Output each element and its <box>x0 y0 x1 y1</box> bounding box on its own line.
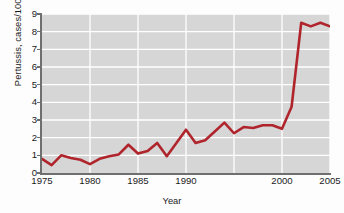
y-tick-mark <box>37 137 40 138</box>
x-tick-label: 1975 <box>22 176 62 186</box>
x-tick-label: 1985 <box>118 176 158 186</box>
y-tick-label: 1 <box>17 150 37 160</box>
y-tick-label: 4 <box>17 97 37 107</box>
x-axis-title: Year <box>0 196 344 206</box>
y-tick-label: 2 <box>17 133 37 143</box>
plot-area <box>42 14 330 173</box>
y-tick-mark <box>37 102 40 103</box>
y-tick-label: 5 <box>17 80 37 90</box>
y-tick-mark <box>37 84 40 85</box>
y-tick-label: 7 <box>17 44 37 54</box>
y-tick-mark <box>37 13 40 14</box>
x-tick-label: 2000 <box>262 176 302 186</box>
x-tick-label: 1990 <box>166 176 206 186</box>
y-tick-mark <box>37 119 40 120</box>
x-tick-label: 1980 <box>70 176 110 186</box>
y-axis-line <box>40 13 42 174</box>
plot-svg <box>42 14 330 173</box>
pertussis-incidence-chart: Pertussis, cases/100,000 0123456789 1975… <box>0 0 344 213</box>
y-tick-mark <box>37 49 40 50</box>
y-tick-label: 8 <box>17 27 37 37</box>
y-tick-mark <box>37 155 40 156</box>
y-tick-mark <box>37 172 40 173</box>
y-tick-label: 9 <box>17 9 37 19</box>
y-tick-mark <box>37 66 40 67</box>
y-tick-mark <box>37 31 40 32</box>
x-tick-label: 2005 <box>310 176 344 186</box>
y-tick-label: 3 <box>17 115 37 125</box>
y-tick-label: 6 <box>17 62 37 72</box>
